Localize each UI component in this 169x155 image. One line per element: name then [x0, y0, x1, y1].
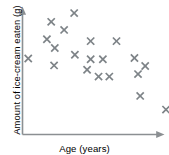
data-point-marker	[99, 56, 106, 63]
data-point-marker	[61, 26, 68, 33]
data-point-marker	[43, 36, 50, 43]
data-point-marker	[48, 18, 55, 25]
data-point-marker	[25, 55, 32, 62]
data-point-marker	[134, 71, 141, 78]
data-point-marker	[71, 10, 78, 17]
data-point-marker	[95, 73, 102, 80]
data-point-marker	[83, 66, 90, 73]
data-point-marker	[106, 73, 113, 80]
data-point-marker	[87, 38, 94, 45]
x-axis-label-wrapper: Age (years)	[0, 138, 169, 155]
scatter-plot-figure: Age (years) Amount of ice-cream eaten (g…	[0, 0, 169, 155]
data-point-marker	[137, 92, 144, 99]
data-point-marker	[71, 51, 78, 58]
x-axis-label: Age (years)	[59, 143, 110, 154]
data-point-group	[25, 10, 169, 114]
x-axis	[23, 131, 165, 138]
data-point-marker	[113, 38, 120, 45]
data-point-marker	[87, 56, 94, 63]
data-point-marker	[51, 44, 58, 51]
y-axis-label-wrapper: Amount of ice-cream eaten (g)	[6, 0, 20, 140]
data-point-marker	[131, 54, 138, 61]
y-axis-label: Amount of ice-cream eaten (g)	[11, 5, 22, 135]
data-point-marker	[162, 106, 169, 113]
data-point-marker	[50, 62, 57, 69]
data-point-marker	[142, 62, 149, 69]
plot-area	[0, 0, 169, 155]
